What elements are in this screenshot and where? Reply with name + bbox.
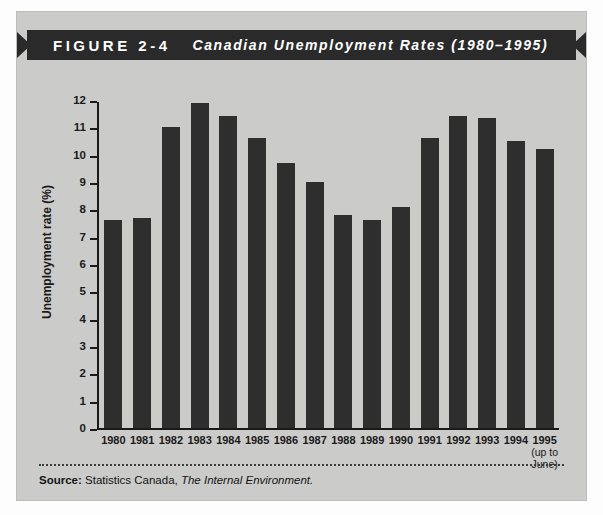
y-axis-tick: 1 [90,402,97,404]
y-axis-tick: 0 [90,429,97,431]
bar[interactable] [104,220,122,428]
source-divider [39,464,564,466]
source-publication: The Internal Environment. [181,474,313,486]
y-axis-tick: 11 [90,128,97,130]
chart-area: Unemployment rate (%) 1211109876543210 1… [41,74,565,452]
source-note: Source: Statistics Canada, The Internal … [39,474,313,486]
banner-right-arrow-icon [572,32,586,58]
bar[interactable] [421,138,439,428]
y-axis-tick-label: 7 [80,231,86,243]
banner-left-arrow-icon [17,32,31,58]
bar-slot [502,90,531,428]
bar[interactable] [219,116,237,428]
y-axis-tick: 8 [90,210,97,212]
source-agency: Statistics Canada, [85,474,178,486]
y-axis-tick-label: 0 [80,422,86,434]
bar-slot [415,90,444,428]
y-axis-tick-label: 10 [73,149,86,161]
bar[interactable] [507,141,525,428]
bar[interactable] [392,207,410,428]
y-axis-tick: 2 [90,374,97,376]
x-axis-line [97,428,559,430]
y-axis-tick: 7 [90,238,97,240]
y-axis-tick: 12 [90,101,97,103]
bar-slot [128,90,157,428]
figure-banner: FIGURE 2-4 Canadian Unemployment Rates (… [17,30,586,60]
bar[interactable] [162,127,180,428]
bar-slot [243,90,272,428]
y-axis-tick-label: 4 [80,313,86,325]
y-axis-tick-label: 9 [80,176,86,188]
y-axis-tick: 3 [90,347,97,349]
y-axis-title: Unemployment rate (%) [37,74,57,430]
bar-slot [185,90,214,428]
bar-slot [444,90,473,428]
bar[interactable] [277,163,295,428]
figure-number-label: FIGURE 2-4 [53,37,171,54]
figure-container: FIGURE 2-4 Canadian Unemployment Rates (… [0,0,603,515]
bar-slot [272,90,301,428]
bar[interactable] [306,182,324,428]
bar-slot [473,90,502,428]
bar-slot [530,90,559,428]
y-axis-tick-label: 1 [80,395,86,407]
source-label: Source: [39,474,82,486]
bar[interactable] [363,220,381,428]
bar[interactable] [334,215,352,428]
bar-slot [214,90,243,428]
figure-title: Canadian Unemployment Rates (1980–1995) [193,37,549,53]
y-axis-tick-label: 3 [80,340,86,352]
x-axis-sublabel: (up to [530,446,559,458]
y-axis-tick-label: 5 [80,285,86,297]
y-axis-tick: 6 [90,265,97,267]
bar-slot [99,90,128,428]
y-axis-tick-label: 2 [80,367,86,379]
y-axis-title-text: Unemployment rate (%) [40,185,54,319]
bar-slot [387,90,416,428]
y-axis-tick-label: 8 [80,203,86,215]
y-axis-tick: 4 [90,320,97,322]
bar-slot [157,90,186,428]
y-axis-tick: 9 [90,183,97,185]
figure-page: FIGURE 2-4 Canadian Unemployment Rates (… [17,12,586,500]
y-axis-tick-label: 12 [73,94,86,106]
bar-series [99,90,559,428]
bar[interactable] [248,138,266,428]
bar-slot [300,90,329,428]
banner-bar: FIGURE 2-4 Canadian Unemployment Rates (… [27,30,576,60]
bar[interactable] [478,118,496,428]
y-axis-tick-label: 11 [74,121,86,133]
y-axis-tick: 5 [90,292,97,294]
bar-slot [329,90,358,428]
bar[interactable] [191,103,209,428]
bar-slot [358,90,387,428]
bar[interactable] [133,218,151,428]
bar[interactable] [449,116,467,428]
y-axis-tick-label: 6 [80,258,86,270]
y-axis-tick: 10 [90,156,97,158]
bar[interactable] [536,149,554,428]
plot-area: 1211109876543210 [97,90,559,430]
